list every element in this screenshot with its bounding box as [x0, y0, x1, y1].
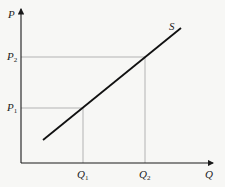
p2-sub: 2 [14, 56, 18, 64]
p2-tick-label: P2 [7, 51, 17, 64]
p2-main: P [7, 50, 14, 62]
p1-tick-label: P1 [7, 102, 17, 115]
q2-main: Q [139, 168, 147, 180]
x-axis-label: Q [205, 169, 213, 180]
supply-curve-label: S [169, 21, 175, 32]
p1-sub: 1 [14, 107, 18, 115]
y-axis-label: P [8, 9, 15, 20]
q1-sub: 1 [85, 174, 89, 182]
supply-curve [43, 28, 181, 140]
supply-curve-chart [0, 0, 225, 187]
q2-sub: 2 [147, 174, 151, 182]
q2-tick-label: Q2 [139, 169, 150, 182]
p1-main: P [7, 101, 14, 113]
q1-tick-label: Q1 [77, 169, 88, 182]
q1-main: Q [77, 168, 85, 180]
